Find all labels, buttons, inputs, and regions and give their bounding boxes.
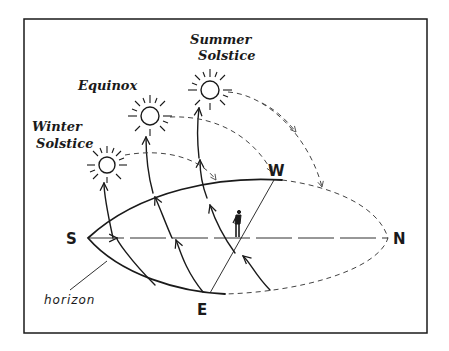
sun-path-diagram: Summer Solstice Equinox Winter Solstice … xyxy=(0,0,449,351)
winter-solstice-label-line2: Solstice xyxy=(36,136,93,151)
sun-icon xyxy=(87,146,127,183)
sun-icon xyxy=(128,95,172,136)
sun-icon xyxy=(188,69,232,110)
west-label: W xyxy=(268,162,285,180)
winter-arc-2 xyxy=(104,183,113,238)
south-label: S xyxy=(66,230,77,248)
horizon-back-dashed xyxy=(225,180,388,294)
east-label: E xyxy=(197,301,207,319)
summer-solstice-label-line1: Summer xyxy=(190,32,253,47)
summer-solstice-label-line2: Solstice xyxy=(198,48,255,63)
summer-arc-4 xyxy=(198,108,200,158)
observer-person-icon xyxy=(233,210,241,237)
summer-arc-3 xyxy=(200,160,207,198)
north-label: N xyxy=(393,230,406,248)
winter-solstice-label-line1: Winter xyxy=(32,119,83,134)
summer-arc-1 xyxy=(243,256,270,290)
equinox-arc-2 xyxy=(155,197,172,238)
equinox-arc-1 xyxy=(176,240,203,292)
diagram-frame xyxy=(24,19,427,333)
horizon-pointer-line xyxy=(70,261,107,290)
equinox-arc-3 xyxy=(146,137,153,193)
winter-set-arc xyxy=(125,153,216,180)
equinox-set-arc xyxy=(170,117,272,172)
east-west-line xyxy=(210,180,274,293)
horizon-front-solid xyxy=(88,179,282,294)
horizon-label: horizon xyxy=(44,293,95,307)
summer-arc-2 xyxy=(210,205,235,253)
equinox-label: Equinox xyxy=(77,78,138,93)
